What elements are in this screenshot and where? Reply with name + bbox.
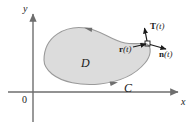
vector-label-r: r(t) [119, 45, 132, 54]
vector-T-arrow [145, 28, 148, 41]
vector-label-n: n(t) [159, 50, 173, 59]
vector-n-arg: (t) [164, 49, 173, 59]
origin-label: 0 [22, 95, 27, 105]
vector-field-region-figure: y x 0 D C T(t) r(t) n(t) [0, 0, 193, 131]
x-axis-label: x [181, 97, 185, 107]
region-label-D: D [81, 57, 90, 69]
vector-T-arg: (t) [156, 21, 165, 31]
vector-r-arg: (t) [123, 44, 132, 54]
region-D-shape [44, 28, 150, 85]
figure-canvas [0, 0, 193, 131]
y-axis-label: y [23, 4, 27, 14]
region-D-fill [44, 28, 150, 85]
vector-label-T: T(t) [150, 22, 165, 31]
curve-label-C: C [124, 82, 132, 94]
